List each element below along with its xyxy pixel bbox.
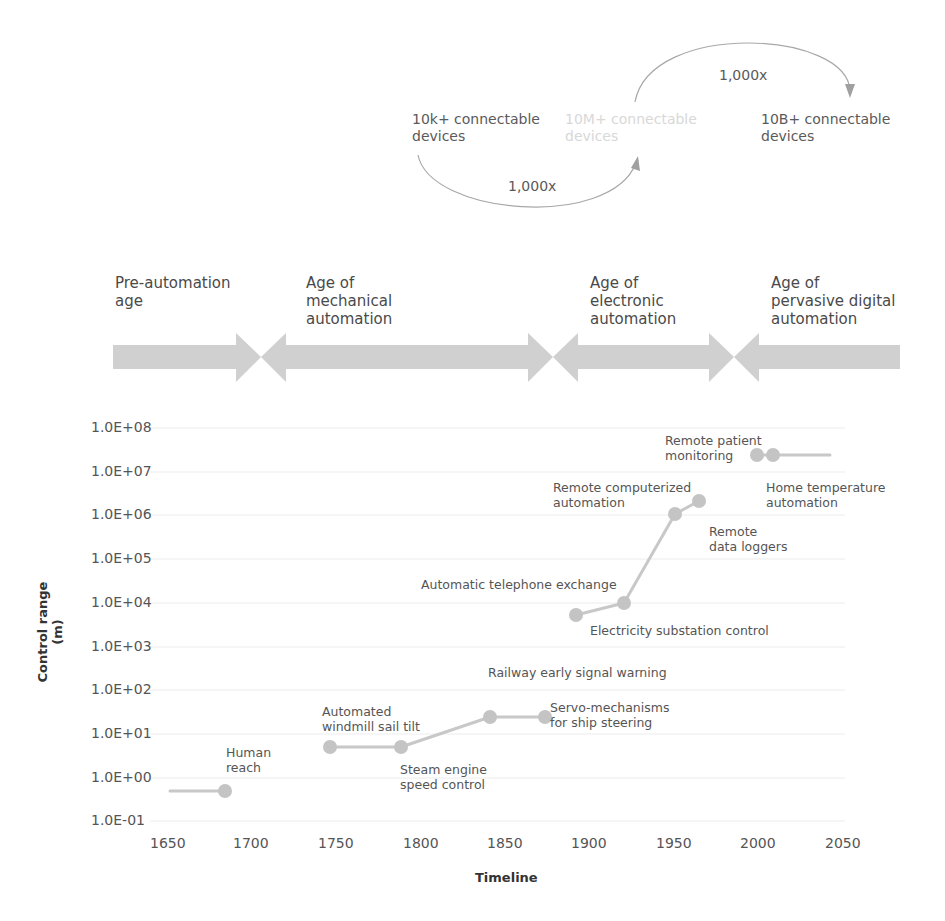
y-tick: 1.0E-01	[91, 812, 145, 828]
x-tick: 1650	[150, 835, 186, 851]
era-arrows	[113, 333, 900, 382]
annotation-telephone: Automatic telephone exchange	[421, 577, 617, 592]
annotation-steam-engine: Steam engine speed control	[400, 762, 487, 792]
era-label-electronic: Age of electronic automation	[590, 274, 676, 328]
annotation-remote-computerized: Remote computerized automation	[553, 480, 691, 510]
stage-10m-label: 10M+ connectable devices	[565, 111, 697, 145]
annotation-human-reach: Human reach	[226, 745, 271, 775]
y-tick: 1.0E+03	[91, 638, 152, 654]
y-tick: 1.0E+00	[91, 769, 152, 785]
x-tick: 1950	[656, 835, 692, 851]
y-tick: 1.0E+01	[91, 725, 152, 741]
y-tick: 1.0E+02	[91, 681, 152, 697]
x-tick: 2000	[740, 835, 776, 851]
annotation-substation: Electricity substation control	[590, 623, 769, 638]
stage-10b-label: 10B+ connectable devices	[761, 111, 890, 145]
annotation-home-temperature: Home temperature automation	[766, 480, 885, 510]
x-tick: 1800	[403, 835, 439, 851]
arrowhead-icon	[845, 84, 855, 98]
annotation-patient-monitoring: Remote patient monitoring	[665, 433, 762, 463]
y-axis-title: Control range (m)	[35, 572, 65, 692]
multiplier-label-1: 1,000x	[508, 178, 556, 195]
x-tick: 1900	[571, 835, 607, 851]
x-tick: 1850	[487, 835, 523, 851]
arrowhead-icon	[631, 156, 640, 171]
x-tick: 1750	[318, 835, 354, 851]
y-tick: 1.0E+07	[91, 463, 152, 479]
era-label-mechanical: Age of mechanical automation	[306, 274, 392, 328]
y-tick: 1.0E+04	[91, 594, 152, 610]
x-axis-title: Timeline	[475, 870, 538, 885]
annotation-servo: Servo-mechanisms for ship steering	[550, 700, 669, 730]
y-tick: 1.0E+06	[91, 506, 152, 522]
y-tick: 1.0E+08	[91, 419, 152, 435]
stage-10k-label: 10k+ connectable devices	[412, 111, 540, 145]
annotation-windmill: Automated windmill sail tilt	[322, 704, 420, 734]
multiplier-label-2: 1,000x	[719, 67, 767, 84]
x-tick: 2050	[825, 835, 861, 851]
annotation-data-loggers: Remote data loggers	[709, 524, 787, 554]
x-tick: 1700	[233, 835, 269, 851]
annotation-railway: Railway early signal warning	[488, 665, 667, 680]
era-label-pervasive: Age of pervasive digital automation	[771, 274, 895, 328]
y-tick: 1.0E+05	[91, 550, 152, 566]
era-label-pre-automation: Pre-automation age	[115, 274, 231, 310]
